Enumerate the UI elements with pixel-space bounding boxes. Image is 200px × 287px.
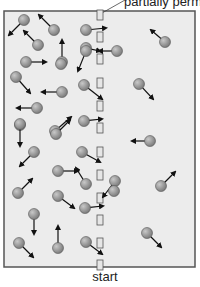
particle-ball [81,179,92,190]
particle-ball [81,237,92,248]
container-frame [4,11,195,267]
particle-ball [56,59,67,70]
particle-ball [53,191,64,202]
membrane-pore [97,170,103,180]
particle-ball [53,243,64,254]
particle-ball [29,209,40,220]
particle-ball [33,40,44,51]
membrane-pore [97,147,103,157]
particle-ball [14,238,25,249]
particle-ball [145,136,156,147]
particle-ball [15,119,26,130]
membrane-pore [97,101,103,111]
membrane-pore [97,123,103,133]
particle-ball [79,116,90,127]
particle-ball [79,80,90,91]
membrane-pore [97,215,103,225]
particle-ball [11,72,22,83]
membrane-pore [97,238,103,248]
particle-ball [57,87,68,98]
particle-ball [134,79,145,90]
membrane-pore [97,54,103,64]
particle-ball [112,46,123,57]
membrane-pore [97,193,103,203]
particle-ball [32,103,43,114]
particle-ball [51,129,62,140]
particle [109,186,120,197]
particle-ball [49,25,60,36]
particle-ball [81,46,92,57]
membrane-pore [97,10,103,20]
start-caption: start [0,269,200,284]
particle-ball [80,203,91,214]
particle-ball [53,166,64,177]
particle-ball [29,147,40,158]
particle-ball [160,37,171,48]
particle-ball [110,176,121,187]
particle [56,59,67,70]
particle-ball [142,228,153,239]
membrane-label: partially perm [124,0,200,9]
membrane-pore [97,78,103,88]
particle-ball [109,186,120,197]
particle-ball [19,15,30,26]
diffusion-diagram [0,0,200,287]
particle-ball [13,188,24,199]
membrane-pore [97,32,103,42]
particle-ball [21,57,32,68]
particle-ball [156,181,167,192]
particle-ball [81,25,92,36]
particle-ball [77,147,88,158]
